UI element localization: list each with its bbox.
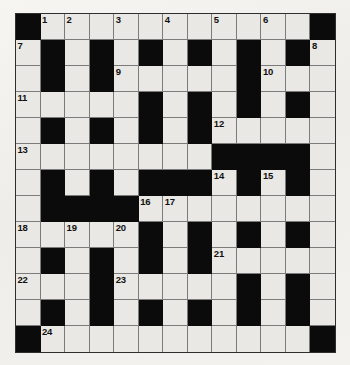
crossword-cell[interactable] — [41, 92, 66, 118]
crossword-cell[interactable] — [139, 144, 164, 170]
crossword-cell[interactable] — [65, 300, 90, 326]
crossword-cell[interactable] — [237, 326, 262, 352]
crossword-cell[interactable] — [188, 144, 213, 170]
crossword-cell[interactable] — [237, 118, 262, 144]
crossword-cell[interactable]: 7 — [16, 40, 41, 66]
crossword-cell[interactable]: 9 — [114, 66, 139, 92]
crossword-cell[interactable] — [286, 248, 311, 274]
crossword-cell[interactable] — [286, 66, 311, 92]
crossword-cell[interactable] — [16, 118, 41, 144]
crossword-cell[interactable]: 1 — [41, 14, 66, 40]
crossword-cell[interactable] — [90, 14, 115, 40]
crossword-cell[interactable] — [188, 326, 213, 352]
crossword-cell[interactable] — [41, 144, 66, 170]
crossword-grid[interactable]: 123456789101112131415161718192021222324 — [15, 13, 336, 353]
crossword-cell[interactable] — [163, 274, 188, 300]
crossword-cell[interactable] — [310, 66, 335, 92]
crossword-cell[interactable]: 20 — [114, 222, 139, 248]
crossword-cell[interactable] — [114, 118, 139, 144]
crossword-cell[interactable] — [163, 40, 188, 66]
crossword-cell[interactable] — [310, 92, 335, 118]
crossword-cell[interactable]: 3 — [114, 14, 139, 40]
crossword-cell[interactable] — [90, 144, 115, 170]
crossword-cell[interactable] — [65, 274, 90, 300]
crossword-cell[interactable]: 5 — [212, 14, 237, 40]
crossword-cell[interactable] — [65, 326, 90, 352]
crossword-cell[interactable] — [212, 274, 237, 300]
crossword-cell[interactable] — [261, 326, 286, 352]
crossword-cell[interactable] — [261, 196, 286, 222]
crossword-cell[interactable] — [65, 92, 90, 118]
crossword-cell[interactable] — [237, 14, 262, 40]
crossword-cell[interactable] — [310, 300, 335, 326]
crossword-cell[interactable] — [261, 248, 286, 274]
crossword-cell[interactable] — [139, 326, 164, 352]
crossword-cell[interactable] — [90, 326, 115, 352]
crossword-cell[interactable] — [114, 170, 139, 196]
crossword-cell[interactable] — [212, 40, 237, 66]
crossword-cell[interactable]: 13 — [16, 144, 41, 170]
crossword-cell[interactable]: 14 — [212, 170, 237, 196]
crossword-cell[interactable] — [310, 170, 335, 196]
crossword-cell[interactable] — [286, 118, 311, 144]
crossword-cell[interactable] — [212, 92, 237, 118]
crossword-cell[interactable] — [212, 66, 237, 92]
crossword-cell[interactable] — [163, 300, 188, 326]
crossword-cell[interactable] — [212, 300, 237, 326]
crossword-cell[interactable] — [65, 144, 90, 170]
crossword-cell[interactable] — [65, 170, 90, 196]
crossword-cell[interactable]: 21 — [212, 248, 237, 274]
crossword-cell[interactable]: 15 — [261, 170, 286, 196]
crossword-cell[interactable] — [139, 274, 164, 300]
crossword-cell[interactable]: 8 — [310, 40, 335, 66]
crossword-cell[interactable] — [261, 274, 286, 300]
crossword-cell[interactable] — [114, 326, 139, 352]
crossword-cell[interactable] — [41, 274, 66, 300]
crossword-cell[interactable] — [261, 222, 286, 248]
crossword-cell[interactable] — [163, 326, 188, 352]
crossword-cell[interactable] — [310, 274, 335, 300]
crossword-cell[interactable] — [261, 40, 286, 66]
crossword-cell[interactable] — [163, 144, 188, 170]
crossword-cell[interactable] — [16, 248, 41, 274]
crossword-cell[interactable]: 17 — [163, 196, 188, 222]
crossword-cell[interactable] — [212, 326, 237, 352]
crossword-cell[interactable]: 18 — [16, 222, 41, 248]
crossword-cell[interactable] — [163, 66, 188, 92]
crossword-cell[interactable]: 6 — [261, 14, 286, 40]
crossword-cell[interactable] — [310, 144, 335, 170]
crossword-cell[interactable] — [90, 222, 115, 248]
crossword-cell[interactable]: 4 — [163, 14, 188, 40]
crossword-cell[interactable] — [188, 196, 213, 222]
crossword-cell[interactable] — [188, 14, 213, 40]
crossword-cell[interactable] — [237, 248, 262, 274]
crossword-cell[interactable] — [90, 92, 115, 118]
crossword-cell[interactable] — [163, 118, 188, 144]
crossword-cell[interactable] — [310, 222, 335, 248]
crossword-cell[interactable] — [16, 196, 41, 222]
crossword-cell[interactable]: 24 — [41, 326, 66, 352]
crossword-cell[interactable] — [261, 118, 286, 144]
crossword-cell[interactable] — [114, 92, 139, 118]
crossword-cell[interactable] — [114, 248, 139, 274]
crossword-cell[interactable] — [310, 196, 335, 222]
crossword-cell[interactable] — [310, 248, 335, 274]
crossword-cell[interactable]: 12 — [212, 118, 237, 144]
crossword-cell[interactable] — [310, 118, 335, 144]
crossword-cell[interactable] — [261, 300, 286, 326]
crossword-cell[interactable]: 11 — [16, 92, 41, 118]
crossword-cell[interactable]: 10 — [261, 66, 286, 92]
crossword-cell[interactable] — [16, 170, 41, 196]
crossword-cell[interactable] — [163, 248, 188, 274]
crossword-cell[interactable]: 16 — [139, 196, 164, 222]
crossword-cell[interactable] — [65, 248, 90, 274]
crossword-cell[interactable] — [261, 92, 286, 118]
crossword-cell[interactable]: 22 — [16, 274, 41, 300]
crossword-cell[interactable] — [163, 222, 188, 248]
crossword-cell[interactable] — [237, 196, 262, 222]
crossword-cell[interactable] — [139, 66, 164, 92]
crossword-cell[interactable] — [65, 40, 90, 66]
crossword-cell[interactable]: 2 — [65, 14, 90, 40]
crossword-cell[interactable] — [16, 66, 41, 92]
crossword-cell[interactable] — [114, 40, 139, 66]
